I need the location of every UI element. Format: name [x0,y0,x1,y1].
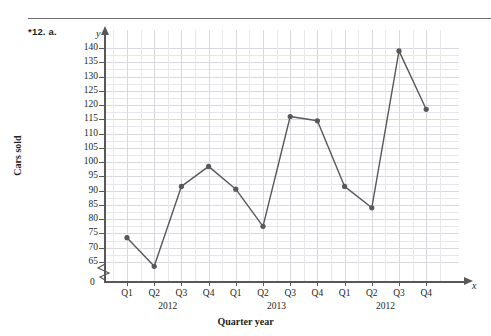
gridline-horizontal-minor [104,155,459,156]
gridline-horizontal-minor [104,84,459,85]
y-axis-tick-label: 115 [72,114,98,124]
x-axis-tick [154,281,155,286]
y-axis-tick-label: 80 [72,214,98,224]
gridline-horizontal [104,148,459,149]
gridline-vertical-minor [413,30,414,282]
x-axis-tick [372,281,373,286]
gridline-horizontal [104,77,459,78]
x-axis-tick [263,281,264,286]
x-axis-tick [317,281,318,286]
x-axis-tick-label: Q4 [194,288,224,298]
gridline-vertical [345,30,346,282]
y-axis-tick-label: 75 [72,228,98,238]
x-axis-tick-label: Q2 [248,288,278,298]
gridline-vertical [209,30,210,282]
gridline-vertical-minor [331,30,332,282]
x-axis-tick [426,281,427,286]
y-axis-tick [99,248,105,249]
y-axis-tick-label: 110 [72,129,98,139]
gridline-horizontal-minor [104,112,459,113]
x-axis-variable-label: x [472,280,476,291]
problem-number-label: *12. a. [28,26,57,37]
gridline-horizontal-minor [104,69,459,70]
y-axis-tick [99,134,105,135]
gridline-vertical-minor [141,30,142,282]
x-axis-tick-label: Q1 [330,288,360,298]
gridline-horizontal [104,233,459,234]
y-axis-tick [99,233,105,234]
y-axis-variable-label: y [96,28,100,39]
gridline-horizontal-minor [104,141,459,142]
gridline-horizontal-minor [104,241,459,242]
y-axis-tick-label: 85 [72,200,98,210]
gridline-horizontal [104,162,459,163]
y-axis-tick [99,105,105,106]
gridline-horizontal [104,248,459,249]
gridline-vertical-minor [277,30,278,282]
gridline-horizontal-minor [104,184,459,185]
x-axis-tick-label: Q1 [221,288,251,298]
gridline-horizontal [104,48,459,49]
gridline-vertical [181,30,182,282]
gridline-vertical [127,30,128,282]
x-axis-tick-label: Q3 [275,288,305,298]
y-axis-tick-label: 130 [72,72,98,82]
x-axis-tick [236,281,237,286]
gridline-horizontal [104,91,459,92]
x-axis-tick [127,281,128,286]
y-axis-tick-label: 135 [72,57,98,67]
gridline-vertical [399,30,400,282]
y-axis-title: Cars sold [12,101,23,211]
y-axis-tick [99,191,105,192]
gridline-vertical-minor [385,30,386,282]
y-axis-tick-label: 120 [72,100,98,110]
gridline-vertical [426,30,427,282]
gridline-vertical [236,30,237,282]
gridline-vertical [290,30,291,282]
header-divider [28,18,491,19]
x-axis-tick [209,281,210,286]
gridline-vertical-minor [195,30,196,282]
y-axis-tick [99,176,105,177]
x-axis-tick [290,281,291,286]
y-axis-tick [99,48,105,49]
y-axis-tick [99,148,105,149]
gridline-horizontal [104,105,459,106]
gridline-horizontal-minor [104,255,459,256]
x-axis-tick-label: Q3 [166,288,196,298]
y-axis-tick-label: 125 [72,86,98,96]
gridline-horizontal [104,134,459,135]
y-axis-tick-label: 95 [72,171,98,181]
gridline-horizontal [104,176,459,177]
gridline-horizontal-minor [104,198,459,199]
gridline-vertical-minor [168,30,169,282]
gridline-horizontal-minor [104,226,459,227]
gridline-horizontal-minor [104,212,459,213]
y-axis-tick [99,119,105,120]
y-axis-tick-label: 140 [72,43,98,53]
x-axis-tick-label: Q2 [357,288,387,298]
gridline-vertical-minor [249,30,250,282]
gridline-horizontal-minor [104,98,459,99]
x-axis-tick-label: Q4 [411,288,441,298]
gridline-horizontal [104,191,459,192]
gridline-vertical [263,30,264,282]
gridline-vertical-minor [440,30,441,282]
x-axis-tick-label: Q4 [302,288,332,298]
y-axis-tick [99,262,105,263]
y-axis-tick-label: 100 [72,157,98,167]
chart-page: *12. a. y x 0 65707580859095100105110115… [0,0,491,336]
gridline-horizontal-minor [104,55,459,56]
y-axis-tick-label: 90 [72,186,98,196]
gridline-horizontal [104,262,459,263]
gridline-vertical-minor [222,30,223,282]
gridlines [104,30,459,282]
gridline-vertical [154,30,155,282]
y-axis-tick [99,77,105,78]
x-axis-tick-label: Q1 [112,288,142,298]
y-axis-arrow-icon [101,26,109,35]
gridline-horizontal [104,119,459,120]
y-axis-tick [99,91,105,92]
gridline-horizontal-minor [104,169,459,170]
x-axis-tick-label: Q3 [384,288,414,298]
